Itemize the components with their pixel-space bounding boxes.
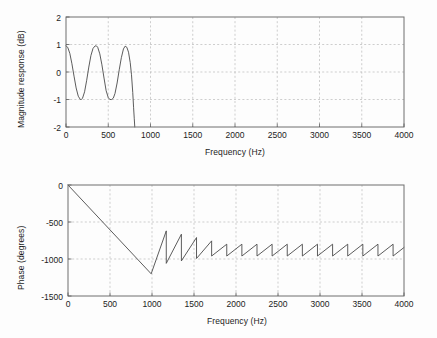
magnitude-x-ticklabels: 0 500 1000 1500 2000 2500 3000 3500 4000 [64,130,414,140]
magnitude-xtick-0: 0 [64,130,69,140]
phase-ytick-1: -1000 [41,255,63,265]
phase-xtick-6: 3000 [311,299,330,309]
phase-x-ticklabels: 0 500 1000 1500 2000 2500 3000 3500 4000 [66,299,414,309]
magnitude-panel: Magnitude response (dB) [0,0,437,168]
phase-grid-vertical [110,185,362,296]
phase-x-axis-label: Frequency (Hz) [172,316,302,326]
phase-xtick-0: 0 [66,299,71,309]
phase-xtick-8: 4000 [395,299,414,309]
phase-ytick-3: 0 [58,181,63,191]
phase-xtick-1: 500 [103,299,117,309]
magnitude-x-axis-label: Frequency (Hz) [170,147,300,157]
magnitude-xtick-8: 4000 [395,130,414,140]
phase-x-tickmarks [68,293,404,297]
magnitude-x-tickmarks [66,124,404,128]
magnitude-xtick-3: 1500 [183,130,202,140]
magnitude-y-axis-label: Magnitude response (dB) [16,30,26,128]
phase-plot: 0 500 1000 1500 2000 2500 3000 3500 4000… [0,168,437,338]
magnitude-xtick-1: 500 [101,130,115,140]
magnitude-xtick-6: 3000 [310,130,329,140]
magnitude-xtick-2: 1000 [141,130,160,140]
phase-ytick-0: -1500 [41,292,63,302]
magnitude-grid-horizontal [66,45,404,100]
magnitude-response-curve [66,46,135,127]
phase-y-axis-label: Phase (degrees) [16,226,26,290]
magnitude-xtick-5: 2500 [268,130,287,140]
magnitude-ytick-4: 2 [56,13,61,23]
magnitude-plot: 0 500 1000 1500 2000 2500 3000 3500 4000… [0,0,437,168]
phase-ytick-2: -500 [46,218,63,228]
magnitude-ytick-2: 0 [56,68,61,78]
magnitude-y-tickmarks [66,17,70,127]
phase-xtick-5: 2500 [269,299,288,309]
phase-y-tickmarks [68,185,72,296]
magnitude-xtick-7: 3500 [352,130,371,140]
phase-xtick-3: 1500 [185,299,204,309]
phase-panel: Phase (degrees) [0,168,437,338]
phase-xtick-4: 2000 [227,299,246,309]
magnitude-ytick-3: 1 [56,40,61,50]
phase-xtick-7: 3500 [353,299,372,309]
figure-canvas: Magnitude response (dB) [0,0,437,338]
phase-xtick-2: 1000 [143,299,162,309]
magnitude-ytick-0: -2 [53,123,61,133]
magnitude-y-ticklabels: 2 1 0 -1 -2 [53,13,61,133]
magnitude-ytick-1: -1 [53,95,61,105]
magnitude-xtick-4: 2000 [226,130,245,140]
phase-y-ticklabels: 0 -500 -1000 -1500 [41,181,63,302]
